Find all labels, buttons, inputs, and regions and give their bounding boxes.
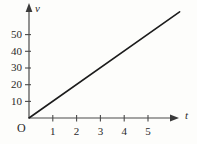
- y-tick-label-20: 20: [0, 79, 22, 90]
- x-tick-label-4: 4: [118, 126, 130, 137]
- y-tick-label-40: 40: [0, 46, 22, 57]
- x-axis-arrow-icon: [170, 115, 179, 122]
- y-tick-label-50: 50: [0, 29, 22, 40]
- y-tick-label-30: 30: [0, 62, 22, 73]
- data-line-series-0: [29, 12, 180, 118]
- origin-label: O: [17, 123, 26, 134]
- x-tick-label-3: 3: [94, 126, 106, 137]
- plot-area: [0, 0, 197, 144]
- velocity-time-graph-figure: 50 40 30 20 10 1 2 3 4 5 O v t: [0, 0, 197, 144]
- y-axis-arrow-icon: [26, 3, 33, 12]
- x-tick-label-1: 1: [47, 126, 59, 137]
- x-axis-label: t: [185, 110, 188, 121]
- x-tick-label-5: 5: [142, 126, 154, 137]
- y-axis-ticks: [25, 35, 31, 102]
- y-tick-label-10: 10: [0, 96, 22, 107]
- x-tick-label-2: 2: [71, 126, 83, 137]
- y-axis-label: v: [35, 3, 40, 14]
